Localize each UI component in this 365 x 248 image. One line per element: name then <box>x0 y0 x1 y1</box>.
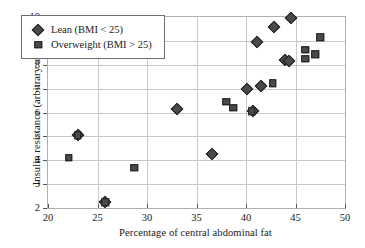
data-point-lean <box>267 20 280 33</box>
chart-legend: Lean (BMI < 25) Overweight (BMI > 25) <box>21 15 165 59</box>
legend-item-overweight: Overweight (BMI > 25) <box>31 37 152 52</box>
data-point-lean <box>241 82 254 95</box>
y-tick-label: 5 <box>35 131 40 142</box>
y-tick-mark <box>43 89 47 90</box>
y-tick-mark <box>43 113 47 114</box>
square-marker-icon <box>31 39 45 51</box>
x-tick-mark <box>147 204 148 208</box>
gridline-vertical <box>197 17 198 208</box>
data-point-lean <box>206 147 219 160</box>
data-point-over <box>269 80 277 88</box>
y-tick-label: 8 <box>35 60 40 71</box>
y-tick-mark <box>43 160 47 161</box>
x-tick-label: 45 <box>290 213 301 224</box>
data-point-over <box>317 33 325 41</box>
legend-label-overweight: Overweight (BMI > 25) <box>51 39 152 50</box>
data-point-over <box>74 131 82 139</box>
x-tick-label: 50 <box>340 213 351 224</box>
y-tick-mark <box>43 208 47 209</box>
x-tick-mark <box>246 204 247 208</box>
x-tick-mark <box>197 204 198 208</box>
x-tick-mark <box>345 204 346 208</box>
x-tick-label: 35 <box>191 213 202 224</box>
data-point-over <box>302 46 310 54</box>
data-point-over <box>302 55 310 63</box>
data-point-over <box>102 198 110 206</box>
y-tick-label: 3 <box>35 179 40 190</box>
data-point-over <box>229 104 237 112</box>
y-tick-mark <box>43 136 47 137</box>
x-tick-mark <box>296 204 297 208</box>
data-point-over <box>65 154 73 162</box>
y-tick-mark <box>43 184 47 185</box>
gridline-vertical <box>296 17 297 208</box>
data-point-over <box>248 108 256 116</box>
legend-item-lean: Lean (BMI < 25) <box>31 22 152 37</box>
y-tick-label: 2 <box>35 203 40 214</box>
data-point-over <box>312 50 320 58</box>
legend-label-lean: Lean (BMI < 25) <box>51 24 123 35</box>
gridline-vertical <box>246 17 247 208</box>
data-point-over <box>130 164 138 172</box>
scatter-plot-figure: Insulin resistance (arbitrary units) 234… <box>0 0 365 248</box>
x-tick-label: 25 <box>92 213 103 224</box>
x-tick-label: 40 <box>241 213 252 224</box>
x-tick-label: 20 <box>43 213 54 224</box>
data-point-lean <box>254 79 267 92</box>
x-tick-mark <box>98 204 99 208</box>
x-tick-label: 30 <box>142 213 153 224</box>
y-tick-mark <box>43 65 47 66</box>
y-tick-label: 6 <box>35 107 40 118</box>
y-tick-label: 4 <box>35 155 40 166</box>
x-axis-label: Percentage of central abdominal fat <box>47 227 344 238</box>
x-tick-mark <box>48 204 49 208</box>
diamond-marker-icon <box>31 24 45 36</box>
y-tick-label: 7 <box>35 83 40 94</box>
data-point-lean <box>251 35 264 48</box>
